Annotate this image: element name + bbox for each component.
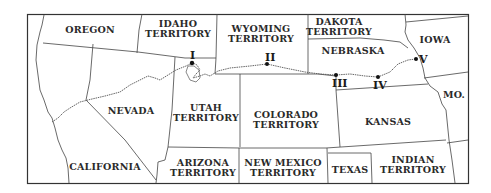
label-colorado-line2: TERRITORY	[253, 119, 319, 130]
label-utah: UTAHTERRITORY	[173, 103, 239, 123]
label-kansas: KANSAS	[365, 117, 411, 127]
label-dakota-line2: TERRITORY	[306, 26, 372, 37]
label-colorado: COLORADOTERRITORY	[253, 110, 319, 130]
label-nebraska: NEBRASKA	[322, 46, 385, 56]
point-marker-V	[414, 57, 418, 61]
label-missouri: MO.	[443, 90, 465, 100]
label-new-mexico: NEW MEXICOTERRITORY	[244, 158, 321, 178]
label-texas: TEXAS	[332, 165, 369, 175]
label-wyoming: WYOMINGTERRITORY	[228, 24, 294, 44]
label-oregon: OREGON	[65, 25, 115, 35]
point-label-III: III	[332, 77, 347, 90]
route-points	[190, 57, 418, 79]
label-indian-line2: TERRITORY	[380, 164, 446, 175]
label-dakota: DAKOTATERRITORY	[306, 17, 372, 37]
label-nevada: NEVADA	[108, 106, 155, 116]
label-idaho: IDAHOTERRITORY	[145, 19, 211, 39]
label-indian: INDIANTERRITORY	[380, 155, 446, 175]
point-label-V: V	[419, 53, 428, 66]
point-label-IV: IV	[373, 79, 387, 92]
label-wyoming-line2: TERRITORY	[228, 33, 294, 44]
point-label-I: I	[190, 49, 195, 62]
label-iowa: IOWA	[420, 35, 451, 45]
label-california: CALIFORNIA	[69, 162, 140, 172]
label-arizona-line2: TERRITORY	[170, 167, 236, 178]
label-idaho-line2: TERRITORY	[145, 28, 211, 39]
label-arizona: ARIZONATERRITORY	[170, 158, 236, 178]
label-utah-line2: TERRITORY	[173, 112, 239, 123]
point-label-II: II	[265, 51, 275, 64]
label-new-mexico-line2: TERRITORY	[250, 167, 316, 178]
lake-shape	[186, 66, 200, 82]
